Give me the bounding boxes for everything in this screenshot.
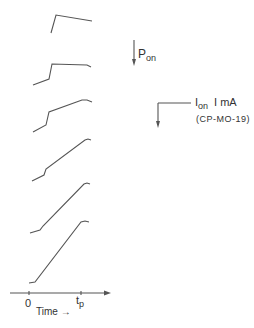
pon-main: P — [138, 47, 146, 61]
trace-3 — [33, 100, 92, 132]
time-axis — [10, 291, 111, 296]
ion-value: I mA — [214, 96, 237, 108]
pon-sub: on — [146, 53, 156, 63]
ion-scale-icon — [156, 103, 191, 128]
origin-label: 0 — [25, 297, 31, 309]
ion-sub: on — [198, 101, 208, 111]
pon-arrow-icon — [132, 40, 136, 66]
trace-5 — [30, 183, 90, 233]
trace-4 — [32, 139, 91, 181]
ion-label: IonI mA — [195, 96, 237, 108]
trace-1 — [51, 15, 92, 33]
axis-arrow-icon — [104, 291, 111, 296]
ion-ref: (CP-MO-19) — [196, 114, 250, 124]
trace-2 — [33, 64, 91, 85]
pon-label: Pon — [138, 47, 156, 61]
time-label: Time → — [36, 306, 71, 317]
diagram-canvas — [0, 0, 254, 328]
tp-label: tp — [76, 294, 84, 306]
tp-sub: p — [79, 299, 84, 309]
